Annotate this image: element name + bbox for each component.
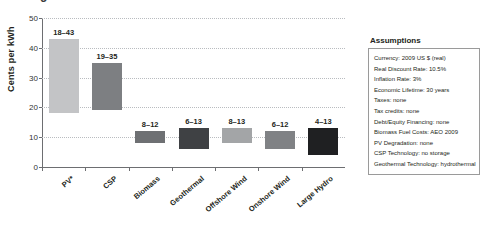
assumption-item: Biomass Fuel Costs: AEO 2009 [374, 127, 475, 138]
gridline [42, 107, 345, 108]
bar-value-label: 6–13 [185, 117, 202, 126]
y-tick-mark [39, 78, 42, 79]
x-tick-mark [85, 167, 86, 171]
chart-canvas: Cents per kWh 01020304050 18–4319–358–12… [0, 0, 360, 226]
bar-value-label: 19–35 [96, 52, 117, 61]
x-tick-mark [42, 167, 43, 171]
bar-value-label: 8–13 [228, 117, 245, 126]
bar-value-label: 6–12 [272, 120, 289, 129]
bar-value-label: 8–12 [142, 120, 159, 129]
bar-value-label: 4–13 [315, 117, 332, 126]
bar-value-label: 18–43 [53, 28, 74, 37]
y-tick-mark [39, 107, 42, 108]
gridline [42, 48, 345, 49]
gridline [42, 18, 345, 19]
assumptions-list: Currency: 2009 US $ (real)Real Discount … [368, 48, 480, 175]
gridline [42, 78, 345, 79]
assumption-item: Currency: 2009 US $ (real) [374, 53, 475, 64]
assumption-item: Geothermal Technology: hydrothermal [374, 159, 475, 170]
y-axis-title: Cents per kWh [6, 26, 16, 92]
bar-offshore-wind: 8–13 [222, 128, 252, 143]
assumption-item: Real Discount Rate: 10.5% [374, 64, 475, 75]
y-tick-mark [39, 18, 42, 19]
bar-csp: 19–35 [92, 63, 122, 111]
assumption-item: PV Degradation: none [374, 138, 475, 149]
plot-area: 01020304050 18–4319–358–126–138–136–124–… [42, 18, 345, 167]
assumption-item: CSP Technology: no storage [374, 148, 475, 159]
assumptions-heading: Assumptions [370, 36, 480, 45]
assumption-item: Debt/Equity Financing: none [374, 117, 475, 128]
assumption-item: Tax credits: none [374, 106, 475, 117]
assumption-item: Inflation Rate: 3% [374, 74, 475, 85]
bar-pv: 18–43 [49, 39, 79, 114]
assumptions-panel: Assumptions Currency: 2009 US $ (real)Re… [368, 36, 480, 175]
y-tick-mark [39, 137, 42, 138]
bar-biomass: 8–12 [135, 131, 165, 143]
assumption-item: Economic Lifetime: 30 years [374, 85, 475, 96]
bar-geothermal: 6–13 [179, 128, 209, 149]
assumption-item: Taxes: none [374, 95, 475, 106]
y-tick-mark [39, 48, 42, 49]
